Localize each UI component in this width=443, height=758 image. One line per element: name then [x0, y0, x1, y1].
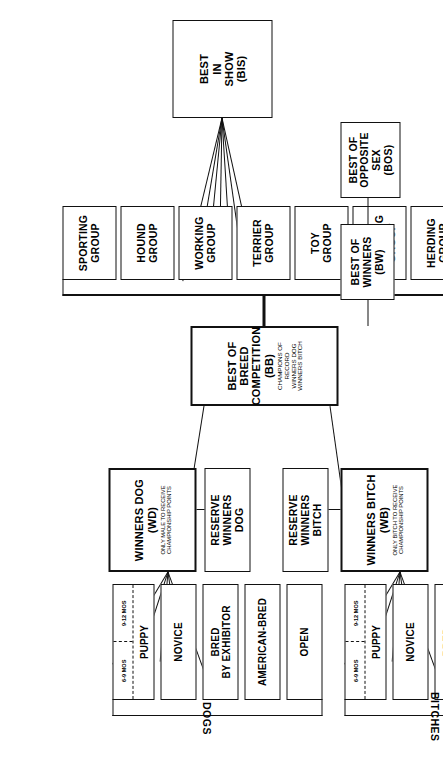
node-reserve-winners-dog[interactable]: RESERVE WINNERSDOG [204, 468, 250, 572]
node-class-novice-dogs-label: NOVICE [172, 622, 183, 662]
node-class-american-bred-dogs-label: AMERICAN-BRED [256, 598, 267, 686]
node-reserve-winners-dog-label: RESERVE WINNERSDOG [209, 469, 244, 571]
node-group-herding-label: HERDINGGROUP [425, 218, 443, 268]
puppy-9-12-mos-bitches: 9-12 MOS [345, 585, 364, 642]
node-group-hound[interactable]: HOUNDGROUP [120, 206, 174, 280]
figure-page: BESTINSHOW(BIS) SPORTINGGROUP HOUNDGROUP… [0, 0, 443, 758]
puppy-months-split-bitches: 6-9 MOS 9-12 MOS [345, 585, 365, 699]
node-group-working[interactable]: WORKINGGROUP [178, 206, 232, 280]
node-class-puppy-bitches-label: PUPPY [365, 585, 385, 699]
edge-wd-to-reserve [196, 509, 204, 510]
node-class-puppy-dogs-label: PUPPY [133, 585, 153, 699]
node-class-novice-dogs[interactable]: NOVICE [160, 584, 196, 700]
edge-groups-to-bb [262, 294, 265, 326]
node-class-bred-by-exhibitor-dogs-label: BREDBY EXHIBITOR [209, 605, 231, 678]
puppy-9-12-mos-dogs: 9-12 MOS [113, 585, 132, 642]
node-reserve-winners-bitch[interactable]: RESERVE WINNERSBITCH [282, 468, 328, 572]
puppy-months-split-dogs: 6-9 MOS 9-12 MOS [113, 585, 133, 699]
node-winners-bitch-subtitle: ONLY BITCH TO RECEIVECHAMPIONSHIP POINTS [391, 485, 404, 556]
node-best-of-winners-label: BEST OFWINNERS (BW) [349, 225, 384, 299]
node-winners-dog[interactable]: WINNERS DOG (WD) ONLY MALE TO RECEIVECHA… [108, 468, 196, 572]
node-group-hound-label: HOUNDGROUP [135, 223, 159, 263]
node-best-of-winners[interactable]: BEST OFWINNERS (BW) [340, 224, 394, 300]
diagram-stage: BESTINSHOW(BIS) SPORTINGGROUP HOUNDGROUP… [0, 0, 443, 758]
node-class-bred-by-exhibitor-bitches[interactable]: BREDBY EXHIBITOR [434, 584, 443, 700]
node-winners-bitch[interactable]: WINNERS BITCH (WB) ONLY BITCH TO RECEIVE… [340, 468, 428, 572]
edge-bw-to-bos [367, 198, 368, 224]
node-class-puppy-bitches[interactable]: 6-9 MOS 9-12 MOS PUPPY [344, 584, 386, 700]
node-best-of-opposite-sex[interactable]: BEST OFOPPOSITE SEX(BOS) [340, 122, 400, 198]
bitches-bracket-top-stub [344, 699, 345, 716]
node-group-terrier-label: TERRIERGROUP [251, 219, 275, 267]
dogs-bracket-label: DOGS [200, 702, 212, 728]
node-winners-dog-subtitle: ONLY MALE TO RECEIVECHAMPIONSHIP POINTS [159, 485, 172, 554]
node-class-open-dogs[interactable]: OPEN [286, 584, 322, 700]
node-group-toy-label: TOYGROUP [309, 223, 333, 263]
edge-wb-to-reserve [328, 509, 340, 510]
groups-bracket-top-stub [62, 279, 63, 296]
node-group-sporting[interactable]: SPORTINGGROUP [62, 206, 116, 280]
puppy-6-9-mos-dogs: 6-9 MOS [113, 642, 132, 700]
node-best-in-show-label: BESTINSHOW(BIS) [197, 51, 246, 86]
node-class-bred-by-exhibitor-dogs[interactable]: BREDBY EXHIBITOR [202, 584, 238, 700]
node-best-of-opposite-sex-label: BEST OFOPPOSITE SEX(BOS) [347, 123, 394, 197]
puppy-6-9-mos-bitches: 6-9 MOS [345, 642, 364, 700]
node-group-terrier[interactable]: TERRIERGROUP [236, 206, 290, 280]
edge-bb-to-bw [367, 300, 368, 326]
node-best-of-breed-subtitle: CHAMPIONS OF RECORDWINNERS DOGWINNERS BI… [276, 328, 303, 404]
node-group-herding[interactable]: HERDINGGROUP [410, 206, 443, 280]
node-class-open-dogs-label: OPEN [298, 627, 309, 656]
node-group-sporting-label: SPORTINGGROUP [77, 215, 101, 271]
bitches-bracket-label: BITCHES [428, 692, 440, 738]
node-class-american-bred-dogs[interactable]: AMERICAN-BRED [244, 584, 280, 700]
node-class-puppy-dogs[interactable]: 6-9 MOS 9-12 MOS PUPPY [112, 584, 154, 700]
node-best-of-breed[interactable]: BEST OF BREEDCOMPETITION (BB) CHAMPIONS … [190, 326, 338, 406]
node-class-novice-bitches-label: NOVICE [404, 622, 415, 662]
node-winners-dog-title: WINNERS DOG (WD) [132, 470, 157, 570]
node-best-in-show[interactable]: BESTINSHOW(BIS) [172, 20, 272, 118]
node-winners-bitch-title: WINNERS BITCH (WB) [364, 470, 389, 570]
dogs-bracket-gap-upper [112, 715, 188, 716]
node-group-working-label: WORKINGGROUP [193, 216, 217, 269]
dogs-bracket-bottom-stub [321, 699, 322, 716]
node-class-novice-bitches[interactable]: NOVICE [392, 584, 428, 700]
node-reserve-winners-bitch-label: RESERVE WINNERSBITCH [287, 469, 322, 571]
node-best-of-breed-title: BEST OF BREEDCOMPETITION (BB) [225, 327, 274, 406]
dogs-bracket-top-stub [112, 699, 113, 716]
